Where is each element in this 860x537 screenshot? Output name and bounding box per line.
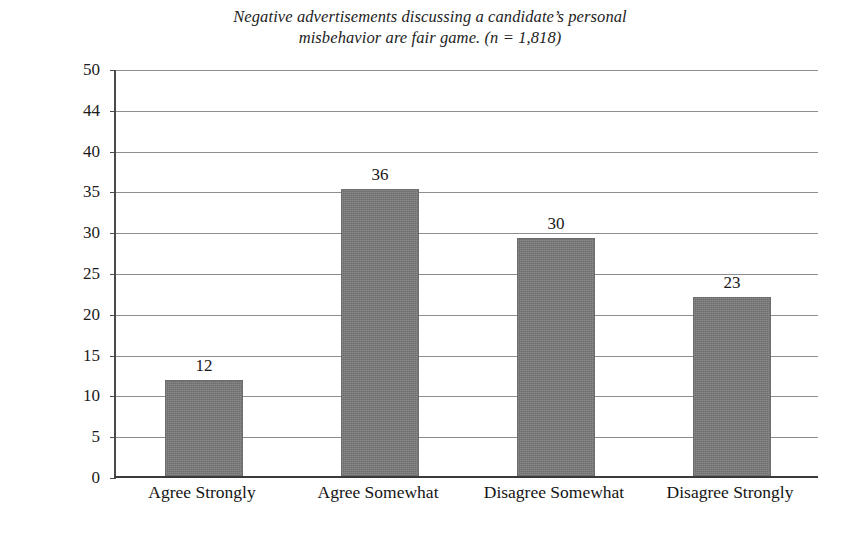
- bar-value-label: 30: [548, 214, 565, 234]
- x-axis-tick-label: Disagree Strongly: [667, 482, 794, 503]
- bar: [341, 189, 419, 476]
- y-axis-tick-label: 30: [83, 223, 100, 243]
- y-axis-tick-mark: [110, 111, 116, 112]
- y-axis-tick-mark: [110, 478, 116, 479]
- y-axis-tick-mark: [110, 192, 116, 193]
- y-axis-tick-mark: [110, 274, 116, 275]
- y-axis-tick-label: 15: [83, 346, 100, 366]
- x-axis-tick-label: Agree Somewhat: [317, 482, 438, 503]
- y-axis-tick-mark: [110, 356, 116, 357]
- bar: [165, 380, 243, 476]
- y-axis-tick-label: 44: [83, 101, 100, 121]
- y-axis-tick-mark: [110, 152, 116, 153]
- y-axis-tick-label: 40: [83, 142, 100, 162]
- gridline: [116, 192, 818, 193]
- y-axis-tick-label: 5: [92, 427, 101, 447]
- y-axis-tick-mark: [110, 315, 116, 316]
- x-axis-tick-label: Disagree Somewhat: [484, 482, 624, 503]
- y-axis-tick-label: 35: [83, 182, 100, 202]
- y-axis-tick-label: 10: [83, 386, 100, 406]
- y-axis-tick-mark: [110, 233, 116, 234]
- gridline: [116, 70, 818, 71]
- y-axis-tick-labels: 50444035302520151050: [0, 0, 108, 537]
- bar-value-label: 36: [372, 165, 389, 185]
- x-axis-tick-labels: Agree StronglyAgree SomewhatDisagree Som…: [114, 482, 818, 514]
- chart-title-line-2: misbehavior are fair game. (n = 1,818): [150, 27, 710, 48]
- bar: [693, 297, 771, 476]
- bar-value-label: 12: [196, 356, 213, 376]
- x-axis-tick-label: Agree Strongly: [148, 482, 255, 503]
- y-axis-tick-mark: [110, 396, 116, 397]
- bar-value-label: 23: [724, 273, 741, 293]
- y-axis-tick-mark: [110, 70, 116, 71]
- y-axis-tick-label: 0: [92, 468, 101, 488]
- gridline: [116, 111, 818, 112]
- y-axis-tick-label: 50: [83, 60, 100, 80]
- chart-title-line-1: Negative advertisements discussing a can…: [150, 6, 710, 27]
- chart-title: Negative advertisements discussing a can…: [150, 6, 710, 48]
- y-axis-tick-label: 25: [83, 264, 100, 284]
- y-axis-tick-mark: [110, 437, 116, 438]
- y-axis-tick-label: 20: [83, 305, 100, 325]
- gridline: [116, 274, 818, 275]
- bar: [517, 238, 595, 476]
- gridline: [116, 233, 818, 234]
- plot-area: 12363023: [114, 70, 818, 478]
- gridline: [116, 152, 818, 153]
